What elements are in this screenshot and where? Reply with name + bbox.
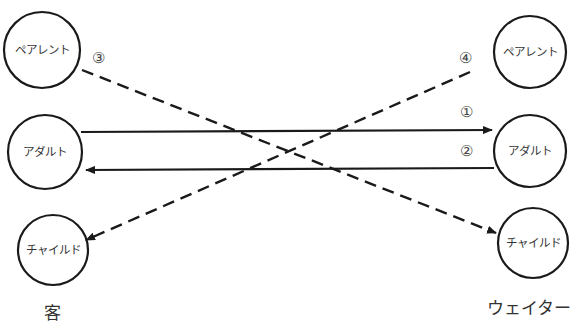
left-parent-node: ペアレント xyxy=(4,12,80,88)
customer-label: 客 xyxy=(44,303,61,323)
right-adult-label: アダルト xyxy=(508,144,552,158)
right-parent-label: ペアレント xyxy=(503,45,558,59)
arrow-2-solid xyxy=(86,168,494,170)
arrow-1-solid xyxy=(81,130,492,132)
arrow-3-label: ③ xyxy=(92,49,105,67)
right-child-label: チャイルド xyxy=(506,236,561,250)
left-adult-label: アダルト xyxy=(23,145,67,159)
arrow-1-label: ① xyxy=(460,103,473,121)
arrow-4-label: ④ xyxy=(459,49,472,67)
arrow-4-dashed xyxy=(86,72,470,240)
left-child-node: チャイルド xyxy=(18,215,88,285)
left-parent-label: ペアレント xyxy=(15,43,70,57)
left-adult-node: アダルト xyxy=(8,115,82,189)
right-child-node: チャイルド xyxy=(498,208,568,278)
arrow-2-label: ② xyxy=(460,142,473,160)
right-parent-node: ペアレント xyxy=(494,16,566,88)
waiter-label: ウェイター xyxy=(487,298,571,318)
transaction-diagram: ペアレント アダルト チャイルド ペアレント アダルト チャイルド ③ ④ ① … xyxy=(0,0,578,330)
right-adult-node: アダルト xyxy=(494,115,566,187)
left-child-label: チャイルド xyxy=(26,243,81,257)
